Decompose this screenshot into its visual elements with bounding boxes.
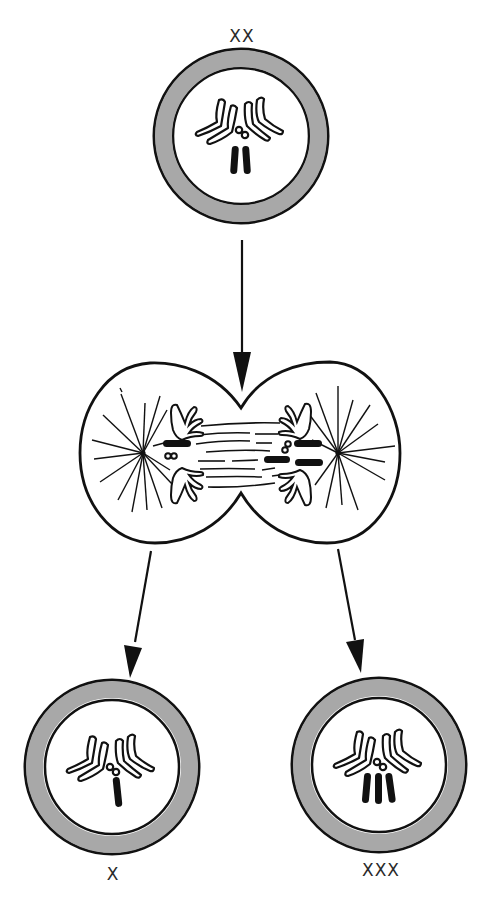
diagram-canvas: XX X XXX [0,0,487,908]
x-chromosomes-icon [362,773,396,804]
parent-cell-label: XX [229,26,254,46]
parent-cell [154,49,328,223]
daughter-cell-x [25,680,199,854]
dividing-cell [80,362,400,543]
daughter-cell-xxx [292,678,466,852]
arrow-down-left-icon [124,551,151,678]
daughter-cell-x-label: X [107,864,120,884]
daughter-cell-xxx-label: XXX [362,860,400,880]
arrow-down-right-icon [338,549,364,673]
arrow-down-icon [233,240,251,392]
